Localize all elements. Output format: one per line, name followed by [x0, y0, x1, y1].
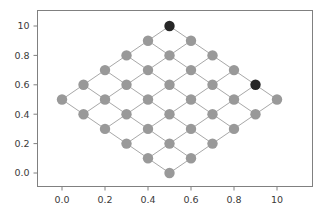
plot-frame	[38, 11, 313, 187]
graph-node	[100, 124, 110, 134]
graph-node	[100, 65, 110, 75]
graph-node	[164, 138, 174, 148]
graph-node	[143, 65, 153, 75]
y-tick-label: 0.8	[14, 50, 29, 61]
x-tick-label: 0.8	[226, 194, 241, 205]
y-tick-label: 0.4	[14, 109, 29, 120]
graph-node	[164, 168, 174, 178]
x-tick-label: 10	[271, 194, 283, 205]
axes-frame	[38, 11, 313, 187]
graph-node	[121, 50, 131, 60]
graph-node	[143, 36, 153, 46]
graph-node-highlighted	[250, 80, 260, 90]
scatter-plot: 0.00.20.40.60.810 0.00.20.40.60.810	[0, 0, 327, 218]
graph-node	[164, 80, 174, 90]
x-tick-label: 0.2	[97, 194, 112, 205]
y-axis-ticks	[34, 26, 38, 173]
figure-canvas: 0.00.20.40.60.810 0.00.20.40.60.810	[0, 0, 327, 218]
graph-node	[121, 138, 131, 148]
graph-node	[121, 109, 131, 119]
graph-node	[100, 94, 110, 104]
graph-node	[78, 80, 88, 90]
graph-node	[229, 65, 239, 75]
graph-node	[186, 36, 196, 46]
x-axis-tick-labels: 0.00.20.40.60.810	[54, 194, 283, 205]
x-tick-label: 0.6	[183, 194, 198, 205]
y-tick-label: 10	[17, 20, 29, 31]
graph-node	[121, 80, 131, 90]
graph-node-highlighted	[164, 21, 174, 31]
y-axis-tick-labels: 0.00.20.40.60.810	[14, 20, 29, 178]
graph-node	[207, 138, 217, 148]
x-tick-label: 0.4	[140, 194, 155, 205]
graph-node	[186, 153, 196, 163]
graph-node	[186, 124, 196, 134]
graph-node	[78, 109, 88, 119]
graph-node	[164, 50, 174, 60]
graph-node	[186, 94, 196, 104]
graph-node	[229, 94, 239, 104]
graph-node	[207, 80, 217, 90]
graph-node	[207, 109, 217, 119]
y-tick-label: 0.6	[14, 79, 29, 90]
y-tick-label: 0.2	[14, 138, 29, 149]
graph-node	[250, 109, 260, 119]
graph-nodes	[57, 21, 282, 178]
graph-node	[164, 109, 174, 119]
y-tick-label: 0.0	[14, 167, 29, 178]
x-axis-ticks	[62, 187, 277, 191]
graph-node	[143, 153, 153, 163]
graph-node	[57, 94, 67, 104]
graph-node	[186, 65, 196, 75]
graph-node	[143, 124, 153, 134]
graph-node	[143, 94, 153, 104]
graph-node	[207, 50, 217, 60]
x-tick-label: 0.0	[54, 194, 69, 205]
graph-node	[229, 124, 239, 134]
graph-edges	[62, 26, 277, 173]
graph-node	[272, 94, 282, 104]
